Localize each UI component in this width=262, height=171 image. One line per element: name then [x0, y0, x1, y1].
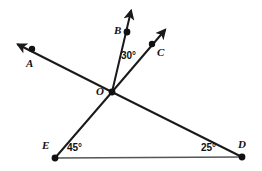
vertex-dot-O [109, 89, 116, 96]
angle-label-BOC: 30° [121, 51, 136, 61]
segment-OE [55, 92, 112, 158]
point-label-D: D [238, 139, 246, 150]
vertex-dot-B [124, 29, 131, 36]
point-label-C: C [157, 47, 164, 58]
point-label-O: O [96, 86, 104, 97]
angle-label-OED: 45° [67, 143, 82, 153]
segment-OD [112, 92, 242, 157]
segment-ED [55, 157, 242, 158]
vertex-dot-D [239, 154, 246, 161]
vertex-dot-E [52, 155, 59, 162]
geometry-diagram: A B C D E O 30° 45° 25° [0, 0, 262, 171]
vertex-dot-C [149, 41, 155, 47]
point-label-A: A [26, 58, 33, 69]
diagram-canvas [0, 0, 262, 171]
point-label-B: B [114, 25, 121, 36]
angle-label-ODE: 25° [201, 143, 216, 153]
point-label-E: E [42, 140, 49, 151]
vertex-dot-A [29, 46, 35, 52]
